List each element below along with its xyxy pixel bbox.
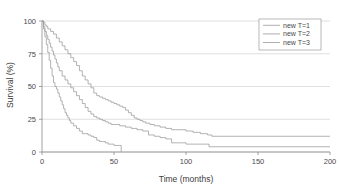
legend-label-3: new T=3 bbox=[283, 39, 310, 46]
x-tick-label-100: 100 bbox=[180, 157, 193, 166]
chart-canvas: 050100150200 0255075100 new T=1new T=2ne… bbox=[0, 0, 339, 190]
x-tick-label-50: 50 bbox=[110, 157, 118, 166]
y-axis-title: Survival (%) bbox=[5, 62, 15, 108]
y-tick-label-0: 0 bbox=[32, 148, 36, 157]
y-tick-label-25: 25 bbox=[28, 115, 36, 124]
y-tick-label-75: 75 bbox=[28, 50, 36, 59]
survival-chart: 050100150200 0255075100 new T=1new T=2ne… bbox=[0, 0, 339, 190]
y-tick-labels: 0255075100 bbox=[23, 17, 36, 157]
x-tick-labels: 050100150200 bbox=[40, 157, 336, 166]
y-tick-label-100: 100 bbox=[23, 17, 36, 26]
legend-label-1: new T=1 bbox=[283, 22, 310, 29]
x-tick-label-150: 150 bbox=[252, 157, 265, 166]
legend-label-2: new T=2 bbox=[283, 30, 310, 37]
x-tick-label-0: 0 bbox=[40, 157, 44, 166]
x-tick-label-200: 200 bbox=[324, 157, 337, 166]
chart-legend: new T=1new T=2new T=3 bbox=[259, 19, 321, 50]
x-axis-title: Time (months) bbox=[159, 174, 214, 184]
y-tick-label-50: 50 bbox=[28, 82, 36, 91]
